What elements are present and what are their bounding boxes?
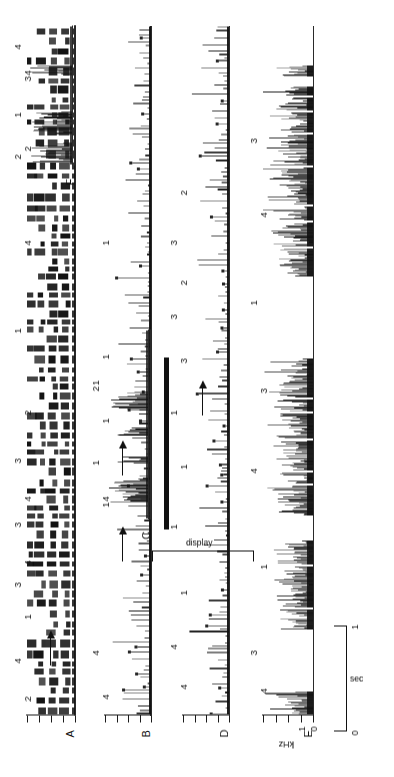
figure-root: A2413434321424B44111C41121D44111133232E4… [0, 0, 394, 777]
panel-C: C41121 [104, 329, 152, 519]
event-arrow-D [202, 381, 203, 415]
panel-E: E4314314301kHz [262, 25, 314, 715]
annotation-E-6: 4 [259, 212, 269, 217]
time-scalebar [334, 625, 347, 731]
annotation-D-4: 1 [179, 464, 189, 469]
annotation-C-1: 1 [91, 460, 101, 465]
time-scalebar-label: sec [350, 673, 363, 683]
annotation-C-4: 1 [101, 354, 111, 359]
baseline-C-inner [148, 329, 149, 519]
panel-letter-B: B [140, 729, 152, 737]
annotation-A-10: 4 [23, 240, 33, 245]
spectrogram-D [183, 26, 229, 714]
event-arrow-A [50, 631, 51, 665]
display-bracket-label: display [186, 537, 212, 547]
annotation-D-2: 1 [179, 590, 189, 595]
annotation-A-2: 1 [23, 614, 33, 619]
axis-tick [117, 715, 118, 722]
axis-tick [183, 715, 184, 722]
annotation-D-0: 4 [179, 684, 189, 689]
axis-tick [218, 715, 219, 722]
axis-tick [229, 715, 230, 722]
annotation-A-4: 4 [23, 560, 33, 565]
annotation-E-1: 3 [249, 650, 259, 655]
annotation-D-3: 1 [169, 524, 179, 529]
annotation-A-9: 1 [13, 328, 23, 333]
axis-tick [27, 715, 28, 722]
panel-letter-A: A [64, 729, 76, 737]
event-arrow-B [122, 527, 123, 561]
axis-tick [105, 715, 106, 722]
annotation-C-2: 1 [101, 418, 111, 423]
axis-tick [206, 715, 207, 722]
frequency-tick-label-1: 1 [297, 726, 307, 731]
panel-letter-D: D [218, 729, 230, 737]
spectrogram-trace-F [26, 26, 72, 164]
annotation-B-4: 1 [101, 240, 111, 245]
figure-canvas: A2413434321424B44111C41121D44111133232E4… [0, 0, 394, 777]
annotation-E-4: 3 [259, 388, 269, 393]
annotation-A-1: 4 [13, 658, 23, 663]
axis-tick [75, 715, 76, 722]
annotation-F-3: 4 [13, 44, 23, 49]
display-bracket [152, 550, 254, 561]
panel-F: F2134 [26, 25, 76, 165]
annotation-A-8: 2 [23, 410, 33, 415]
annotation-B-0: 4 [101, 694, 111, 699]
time-scalebar-end: 1 [350, 624, 360, 629]
time-scalebar-start: 0 [350, 730, 360, 735]
annotation-E-3: 4 [249, 468, 259, 473]
annotation-D-5: 1 [169, 410, 179, 415]
annotation-E-2: 1 [259, 564, 269, 569]
annotation-A-11: 2 [13, 154, 23, 159]
axis-tick [288, 715, 289, 722]
panel-D: D44111133232 [182, 25, 230, 715]
annotation-A-5: 3 [13, 522, 23, 527]
panel-separator-bar [164, 357, 169, 529]
frequency-tick-label-0: 0 [309, 726, 319, 731]
spectrogram-trace-E [263, 26, 313, 714]
baseline-F [74, 25, 76, 165]
annotation-F-1: 1 [13, 112, 23, 117]
annotation-E-0: 4 [259, 688, 269, 693]
annotation-B-3: 1 [91, 380, 101, 385]
annotation-D-6: 3 [179, 358, 189, 363]
baseline-C [150, 329, 152, 519]
axis-tick [151, 715, 152, 722]
axis-tick [51, 715, 52, 722]
annotation-D-1: 4 [169, 644, 179, 649]
annotation-E-5: 1 [249, 300, 259, 305]
axis-tick [263, 715, 264, 722]
annotation-C-0: 4 [101, 496, 111, 501]
annotation-D-9: 3 [169, 240, 179, 245]
annotation-E-7: 3 [249, 138, 259, 143]
axis-tick [39, 715, 40, 722]
spectrogram-F [26, 26, 72, 164]
annotation-F-0: 2 [23, 146, 33, 151]
frequency-axis-label: kHz [279, 739, 295, 749]
axis-tick [140, 715, 141, 722]
baseline-E [313, 25, 314, 715]
spectrogram-trace-D [183, 26, 229, 714]
panel-letter-C: C [140, 531, 152, 539]
axis-tick [128, 715, 129, 722]
annotation-D-10: 2 [179, 190, 189, 195]
annotation-C-3: 2 [91, 386, 101, 391]
annotation-B-1: 4 [91, 650, 101, 655]
annotation-A-6: 4 [23, 496, 33, 501]
spectrogram-E [263, 26, 313, 714]
annotation-F-2: 3 [23, 76, 33, 81]
annotation-A-0: 2 [23, 696, 33, 701]
axis-tick [63, 715, 64, 722]
annotation-A-3: 3 [13, 582, 23, 587]
panel-letter-F: F [64, 178, 76, 185]
baseline-D [229, 25, 230, 715]
annotation-D-8: 2 [179, 280, 189, 285]
axis-tick [276, 715, 277, 722]
event-arrow-C [122, 441, 123, 475]
axis-tick [301, 715, 302, 722]
axis-tick [313, 715, 314, 722]
annotation-A-7: 3 [13, 458, 23, 463]
annotation-D-7: 3 [169, 314, 179, 319]
axis-tick [195, 715, 196, 722]
